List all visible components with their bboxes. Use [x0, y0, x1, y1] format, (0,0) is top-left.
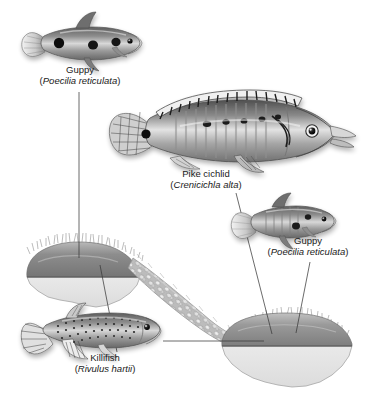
- upstream-pool-cutaway: [27, 277, 140, 307]
- label-guppy-upstream: Guppy (Poecilia reticulata): [20, 64, 140, 86]
- label-guppy-upstream-scientific: (Poecilia reticulata): [20, 75, 140, 86]
- label-killifish-scientific: (Rivulus hartii): [55, 363, 155, 374]
- pike-cichlid-ocellus: [141, 129, 150, 138]
- label-killifish: Killifish (Rivulus hartii): [55, 352, 155, 374]
- label-guppy-downstream-scientific: (Poecilia reticulata): [256, 246, 360, 257]
- killifish-eye: [144, 324, 150, 330]
- guppy-spot: [111, 38, 120, 46]
- pike-cichlid-illustration: [109, 90, 356, 172]
- guppy-eye: [127, 38, 132, 43]
- guppy-spot: [54, 38, 64, 48]
- downstream-pool-cutaway: [222, 346, 352, 387]
- guppy-spot: [88, 40, 98, 49]
- killifish-illustration: [21, 303, 161, 359]
- label-pike-cichlid: Pike cichlid (Crenicichla alta): [150, 168, 262, 190]
- label-killifish-common: Killifish: [55, 352, 155, 363]
- guppy-spot: [292, 223, 300, 230]
- upstream-pool: [27, 233, 143, 307]
- label-pike-cichlid-scientific: (Crenicichla alta): [150, 179, 262, 190]
- fish-stream-diagram: Guppy (Poecilia reticulata) Pike cichlid…: [0, 0, 368, 404]
- diagram-artwork: [0, 0, 368, 404]
- label-pike-cichlid-common: Pike cichlid: [150, 168, 262, 179]
- label-guppy-upstream-common: Guppy: [20, 64, 140, 75]
- downstream-pool: [222, 307, 352, 387]
- guppy-spot: [305, 214, 311, 220]
- guppy-upstream-illustration: [22, 12, 142, 71]
- label-guppy-downstream-common: Guppy: [256, 235, 360, 246]
- guppy-eye: [322, 217, 327, 222]
- label-guppy-downstream: Guppy (Poecilia reticulata): [256, 235, 360, 257]
